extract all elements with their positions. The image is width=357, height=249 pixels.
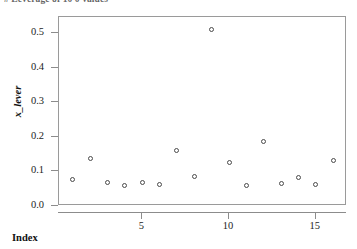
data-point	[331, 158, 336, 163]
x-axis-tick	[141, 212, 142, 219]
x-axis-tick	[228, 212, 229, 219]
y-axis-tick-label: 0.0	[18, 200, 44, 211]
x-axis-title: Index	[12, 232, 38, 243]
data-point	[157, 182, 162, 187]
data-point	[313, 182, 318, 187]
x-axis-tick-label: 5	[129, 221, 153, 232]
y-axis-title: x_lever	[12, 72, 23, 132]
y-axis-tick-label: 0.5	[18, 27, 44, 38]
x-axis-tick	[315, 212, 316, 219]
data-point	[227, 160, 232, 165]
y-axis-tick	[51, 67, 58, 68]
data-point	[279, 181, 284, 186]
y-axis-tick	[51, 32, 58, 33]
data-point	[244, 183, 249, 188]
plot-area	[58, 16, 346, 205]
data-point	[105, 180, 110, 185]
data-point	[209, 27, 214, 32]
y-axis-tick	[51, 101, 58, 102]
data-point	[70, 177, 75, 182]
x-axis-tick-label: 10	[216, 221, 240, 232]
y-axis-tick	[51, 205, 58, 206]
y-axis-tick	[51, 136, 58, 137]
data-point	[174, 148, 179, 153]
data-point	[296, 175, 301, 180]
y-axis-tick	[51, 170, 58, 171]
scatter-plot-figure: # Leverage of 10 0 values 0.00.10.20.30.…	[0, 0, 357, 249]
data-point	[192, 174, 197, 179]
x-axis-tick-label: 15	[303, 221, 327, 232]
data-point	[88, 156, 93, 161]
y-axis-tick-label: 0.1	[18, 165, 44, 176]
y-axis-tick-label: 0.2	[18, 131, 44, 142]
data-point	[140, 180, 145, 185]
x-axis-line	[58, 212, 346, 213]
data-point	[261, 139, 266, 144]
data-point	[122, 183, 127, 188]
